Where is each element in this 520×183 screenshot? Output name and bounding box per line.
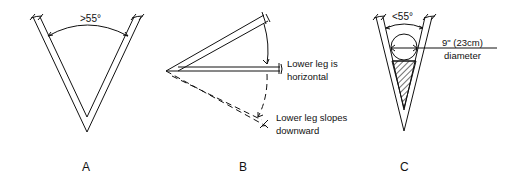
figure-c-diameter-label-line1: 9" (23cm) [442, 37, 483, 48]
figure-b-downward-annotation-line1: Lower leg slopes [276, 112, 348, 123]
figure-b-arrow-horizontal-icon [263, 59, 269, 64]
figure-b-downward-leg-inner [172, 76, 262, 120]
figure-c-arrow-left-icon [386, 26, 390, 29]
figure-c-angle-label: <55° [392, 11, 413, 22]
figure-b-upper-leg-outer [166, 15, 264, 71]
figure-a-angle-arc [48, 25, 128, 36]
figure-c-diameter-label-line2: diameter [444, 50, 481, 61]
figure-a [30, 14, 144, 132]
figure-c-angle-arc [386, 24, 423, 28]
figure-c-break-left [373, 14, 386, 20]
figure-c-label: C [400, 160, 409, 174]
figure-c-hatched-region [392, 61, 416, 108]
figure-b-arc-lower [258, 74, 267, 117]
figure-b-downward-leg-break [260, 120, 268, 128]
figure-b-downward-leg-outer [166, 71, 266, 126]
figure-b-upper-leg-inner [178, 21, 268, 71]
figure-a-label: A [82, 160, 90, 174]
figure-a-angle-label: >55° [80, 13, 101, 24]
figure-b-arc-upper [264, 24, 268, 64]
figure-b-label: B [239, 160, 247, 174]
figure-b-downward-annotation-line2: downward [276, 125, 319, 136]
figure-c-ball-circle [391, 34, 417, 60]
figure-c [373, 14, 497, 131]
diagram-canvas: >55° A Lower leg is horizontal Lower leg… [0, 0, 520, 183]
figure-b-horizontal-annotation-line1: Lower leg is [287, 58, 338, 69]
figure-b-horizontal-leg-break [279, 63, 282, 74]
figure-b [166, 12, 282, 128]
figure-b-horizontal-annotation-line2: horizontal [287, 71, 328, 82]
